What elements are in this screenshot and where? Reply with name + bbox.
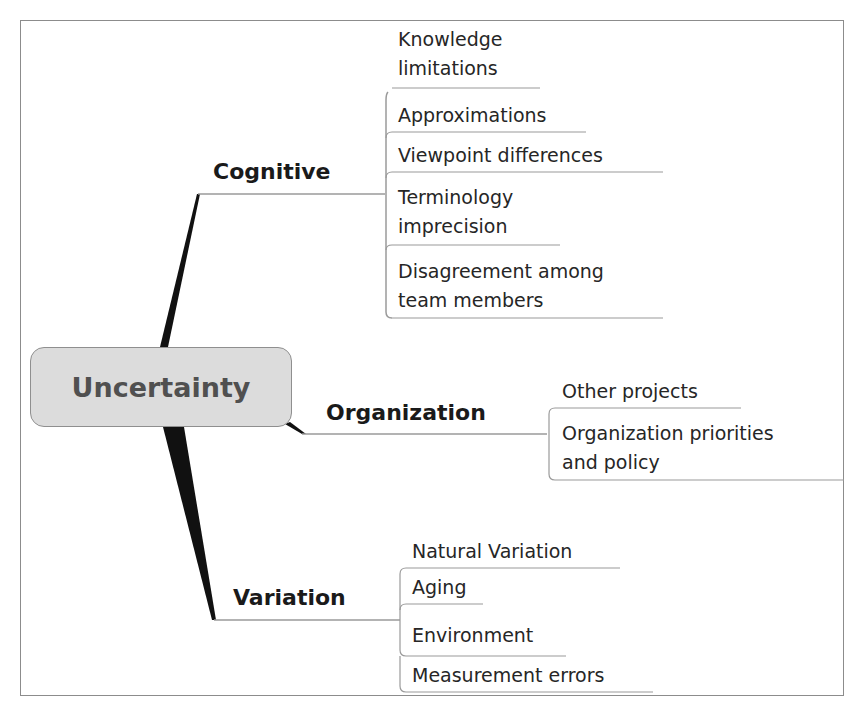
leaf-terminology-imprecision[interactable]: Terminology imprecision [398, 183, 513, 241]
leaf-line: Disagreement among [398, 257, 604, 286]
leaf-line: Organization priorities [562, 419, 774, 448]
trunk-cognitive [160, 194, 200, 347]
leaf-line: Terminology [398, 183, 513, 212]
leaf-viewpoint-differences[interactable]: Viewpoint differences [398, 141, 603, 170]
leaf-label: Environment [412, 624, 533, 646]
leaf-disagreement-among-team-members[interactable]: Disagreement among team members [398, 257, 604, 315]
root-label: Uncertainty [72, 372, 251, 403]
branch-variation[interactable]: Variation [233, 585, 346, 610]
branch-cognitive[interactable]: Cognitive [213, 159, 331, 184]
leaf-knowledge-limitations[interactable]: Knowledge limitations [398, 25, 502, 83]
leaf-label: Approximations [398, 104, 547, 126]
leaf-other-projects[interactable]: Other projects [562, 377, 698, 406]
trunk-variation [163, 427, 216, 620]
branch-organization[interactable]: Organization [326, 400, 486, 425]
leaf-approximations[interactable]: Approximations [398, 101, 547, 130]
leaf-label: Aging [412, 576, 466, 598]
leaf-label: Natural Variation [412, 540, 572, 562]
leaf-line: Knowledge [398, 25, 502, 54]
leaf-environment[interactable]: Environment [412, 621, 533, 650]
leaf-label: Viewpoint differences [398, 144, 603, 166]
leaf-line: team members [398, 286, 604, 315]
leaf-aging[interactable]: Aging [412, 573, 466, 602]
leaf-natural-variation[interactable]: Natural Variation [412, 537, 572, 566]
leaf-line: imprecision [398, 212, 513, 241]
leaf-organization-priorities-and-policy[interactable]: Organization priorities and policy [562, 419, 774, 477]
leaf-line: limitations [398, 54, 502, 83]
trunk-organization [285, 422, 306, 434]
leaf-label: Measurement errors [412, 664, 604, 686]
root-node[interactable]: Uncertainty [30, 347, 292, 427]
leaf-label: Other projects [562, 380, 698, 402]
leaf-line: and policy [562, 448, 774, 477]
leaf-measurement-errors[interactable]: Measurement errors [412, 661, 604, 690]
